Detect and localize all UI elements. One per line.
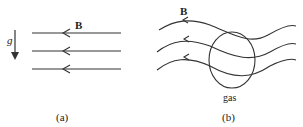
gravity-label: g — [7, 34, 13, 46]
field-line — [157, 41, 296, 57]
field-line — [157, 59, 296, 76]
field-lines-a — [32, 29, 121, 73]
arrow-left-icon — [183, 17, 188, 23]
caption-b: (b) — [222, 111, 235, 124]
gravity-arrowhead-icon — [11, 52, 19, 60]
caption-a: (a) — [56, 111, 69, 124]
field-line — [159, 21, 296, 39]
gas-label: gas — [223, 92, 236, 103]
panel-a: g B (a) — [7, 19, 121, 124]
field-label-b: B — [180, 5, 188, 17]
field-label-a: B — [75, 19, 83, 31]
gas-cloud — [209, 32, 255, 88]
figure: g B (a) B gas (b) — [0, 0, 303, 127]
field-lines-b — [157, 17, 296, 76]
panel-b: B gas (b) — [157, 5, 296, 124]
